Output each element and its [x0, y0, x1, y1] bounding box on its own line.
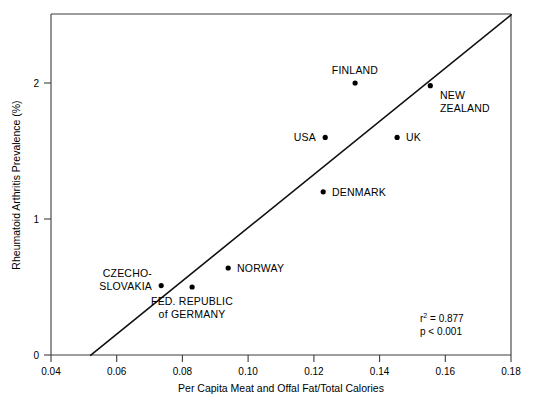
y-axis-title: Rheumatoid Arthritis Prevalence (%): [10, 100, 22, 269]
point-label-denmark: DENMARK: [332, 186, 386, 198]
point-label-new-zealand-line2: ZEALAND: [440, 102, 490, 114]
x-tick-label-0: 0.04: [41, 366, 61, 377]
point-label-fed-republic-line1: FED. REPUBLIC: [151, 295, 233, 307]
p-value-annotation: p < 0.001: [420, 326, 462, 337]
point-label-new-zealand-line1: NEW: [440, 89, 465, 101]
x-axis-title: Per Capita Meat and Offal Fat/Total Calo…: [178, 382, 384, 394]
y-tick-label-0: 0: [33, 350, 39, 361]
data-point-fed-republic-of-germany: [190, 284, 195, 289]
x-tick-label-1: 0.06: [107, 366, 127, 377]
x-tick-label-5: 0.14: [370, 366, 390, 377]
point-label-usa: USA: [294, 131, 316, 143]
point-label-czechoslovakia-line1: CZECHO-: [103, 267, 153, 279]
r-squared-value: = 0.877: [427, 313, 464, 324]
r-squared-annotation: r2 = 0.877: [420, 312, 464, 324]
data-point-denmark: [321, 189, 326, 194]
data-point-norway: [226, 265, 231, 270]
point-label-fed-republic-line2: of GERMANY: [159, 308, 226, 320]
point-label-finland: FINLAND: [332, 64, 379, 76]
x-tick-label-3: 0.10: [238, 366, 258, 377]
scatter-plot-figure: 0 1 2 0.04 0.06 0.08 0.10 0.12 0.14 0.16…: [0, 0, 536, 409]
point-label-czechoslovakia-line2: SLOVAKIA: [99, 280, 152, 292]
y-tick-label-1: 1: [33, 214, 39, 225]
data-point-uk: [395, 135, 400, 140]
x-tick-label-6: 0.16: [436, 366, 456, 377]
point-label-norway: NORWAY: [237, 262, 284, 274]
x-tick-label-4: 0.12: [304, 366, 324, 377]
x-tick-label-2: 0.08: [173, 366, 193, 377]
point-label-uk: UK: [406, 131, 421, 143]
data-point-usa: [323, 135, 328, 140]
data-point-czechoslovakia: [159, 283, 164, 288]
data-point-finland: [353, 80, 358, 85]
x-tick-label-7: 0.18: [501, 366, 521, 377]
data-point-new-zealand: [428, 83, 433, 88]
y-tick-label-2: 2: [33, 78, 39, 89]
plot-canvas: 0 1 2 0.04 0.06 0.08 0.10 0.12 0.14 0.16…: [0, 0, 536, 409]
